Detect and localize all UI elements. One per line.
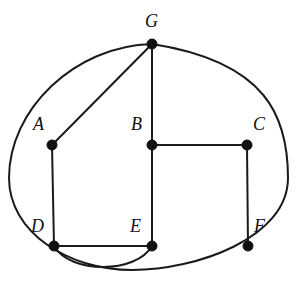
- vertex-label-g: G: [145, 12, 158, 30]
- vertex-b[interactable]: [147, 140, 157, 150]
- vertex-label-d: D: [31, 217, 44, 235]
- graph-figure: G A B C D E F: [0, 0, 305, 284]
- vertex-f[interactable]: [243, 241, 253, 251]
- vertex-a[interactable]: [47, 140, 57, 150]
- vertex-label-c: C: [253, 115, 265, 133]
- graph-canvas: [0, 0, 305, 284]
- vertex-label-e: E: [130, 217, 141, 235]
- vertex-e[interactable]: [147, 241, 157, 251]
- vertex-label-f: F: [254, 217, 265, 235]
- vertex-g[interactable]: [147, 39, 157, 49]
- vertex-label-b: B: [131, 115, 142, 133]
- vertex-c[interactable]: [242, 140, 252, 150]
- edge-c-f[interactable]: [247, 145, 248, 246]
- edge-a-d[interactable]: [52, 145, 54, 246]
- vertex-label-a: A: [33, 115, 44, 133]
- vertex-d[interactable]: [49, 241, 59, 251]
